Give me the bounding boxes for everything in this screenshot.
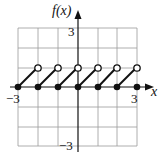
x-axis-label: x [150,84,158,99]
y-axis-label: f(x) [52,3,72,19]
function-graph: f(x) x −3 3 3 −3 [0,0,165,158]
x-min-tick-label: −3 [6,91,20,106]
axes [10,10,154,152]
y-min-tick-label: −3 [59,138,73,153]
x-max-tick-label: 3 [131,91,138,106]
y-axis-arrow-icon [75,10,82,19]
y-max-tick-label: 3 [68,24,75,39]
